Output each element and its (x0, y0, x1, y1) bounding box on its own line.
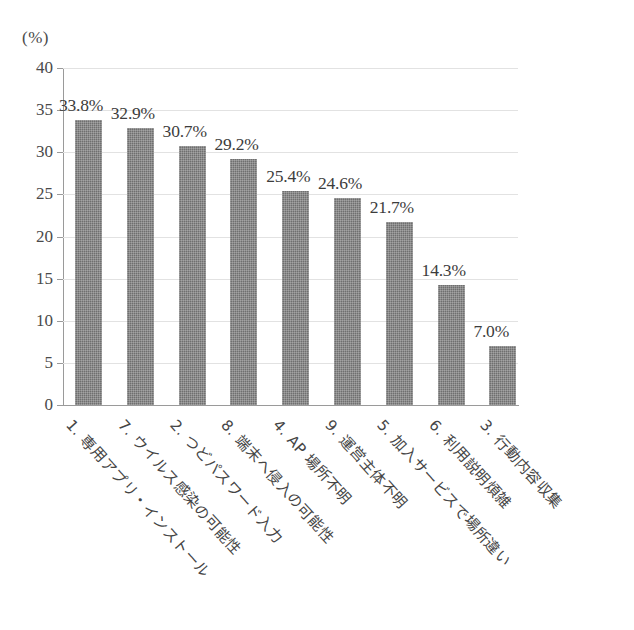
y-axis-tick (57, 405, 63, 406)
y-axis-unit-label: (%) (22, 28, 49, 48)
y-axis-tick-label: 20 (36, 227, 53, 247)
x-axis-line (63, 405, 519, 406)
bar (282, 191, 309, 405)
bar (334, 198, 361, 405)
gridline (63, 68, 518, 69)
y-axis-tick-label: 35 (36, 100, 53, 120)
bar-value-label: 33.8% (59, 95, 103, 116)
y-axis-tick-label: 15 (36, 269, 53, 289)
y-axis-tick (57, 363, 63, 364)
y-axis-tick-label: 40 (36, 58, 53, 78)
bar-value-label: 24.6% (318, 173, 362, 194)
bar (489, 346, 516, 405)
bar-value-label: 21.7% (370, 197, 414, 218)
bar-chart: (%) 403530252015105033.8%32.9%30.7%29.2%… (0, 0, 634, 630)
y-axis-tick-label: 0 (45, 395, 54, 415)
y-axis-tick-label: 5 (45, 353, 54, 373)
bar (179, 146, 206, 405)
bar-value-label: 25.4% (266, 166, 310, 187)
y-axis-tick (57, 279, 63, 280)
bar-value-label: 7.0% (473, 321, 509, 342)
y-axis-tick (57, 321, 63, 322)
y-axis-tick-label: 25 (36, 184, 53, 204)
y-axis-tick (57, 68, 63, 69)
bar-value-label: 30.7% (163, 121, 207, 142)
y-axis-tick (57, 194, 63, 195)
y-axis-tick (57, 152, 63, 153)
bar (386, 222, 413, 405)
bar (75, 120, 102, 405)
y-axis-tick-label: 30 (36, 142, 53, 162)
y-axis-tick-label: 10 (36, 311, 53, 331)
y-axis-tick (57, 237, 63, 238)
bar-value-label: 29.2% (214, 134, 258, 155)
bar-value-label: 32.9% (111, 103, 155, 124)
bar-value-label: 14.3% (422, 260, 466, 281)
bar (438, 285, 465, 405)
plot-area: 403530252015105033.8%32.9%30.7%29.2%25.4… (63, 68, 518, 405)
bar (230, 159, 257, 405)
bar (127, 128, 154, 405)
